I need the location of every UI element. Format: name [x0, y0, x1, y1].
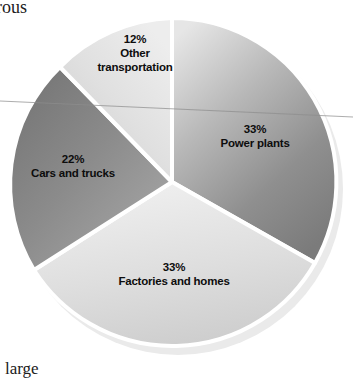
slice-name-other-transportation-line2: transportation — [72, 60, 198, 74]
slice-name-other-transportation-line1: Other — [72, 46, 198, 60]
slice-label-power-plants: 33% Power plants — [198, 122, 312, 150]
slice-pct-cars-and-trucks: 22% — [6, 152, 140, 166]
slice-pct-power-plants: 33% — [198, 122, 312, 136]
slice-pct-factories-and-homes: 33% — [92, 260, 256, 274]
slice-name-factories-and-homes: Factories and homes — [92, 274, 256, 288]
pie-chart-page: rous — [0, 0, 353, 382]
slice-name-power-plants: Power plants — [198, 136, 312, 150]
pie-chart: 33% Power plants 33% Factories and homes… — [0, 0, 353, 382]
slice-pct-other-transportation: 12% — [72, 32, 198, 46]
slice-label-cars-and-trucks: 22% Cars and trucks — [6, 152, 140, 180]
slice-name-cars-and-trucks: Cars and trucks — [6, 166, 140, 180]
slice-label-other-transportation: 12% Other transportation — [72, 32, 198, 74]
slice-label-factories-and-homes: 33% Factories and homes — [92, 260, 256, 288]
page-text-fragment-bottom: large — [5, 360, 39, 377]
